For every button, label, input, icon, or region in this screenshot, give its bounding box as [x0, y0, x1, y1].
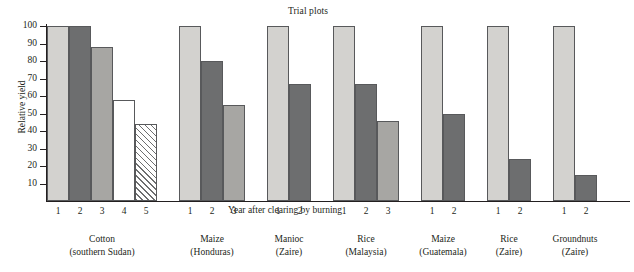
x-axis-tick-label: 2 [291, 206, 309, 216]
bar [553, 26, 575, 201]
x-axis-tick-label: 3 [379, 206, 397, 216]
y-axis-tick [40, 44, 47, 45]
x-axis-tick-label: 1 [49, 206, 67, 216]
y-axis-tick-label: 40 [11, 126, 37, 135]
bar [575, 175, 597, 201]
x-axis-tick-label: 1 [269, 206, 287, 216]
bar [509, 159, 531, 201]
y-axis-tick-label: 90 [11, 39, 37, 48]
y-axis-tick-label: 80 [11, 56, 37, 65]
bar [487, 26, 509, 201]
y-axis-tick [40, 184, 47, 185]
x-axis-tick-label: 5 [137, 206, 155, 216]
y-axis-tick [40, 79, 47, 80]
x-axis-tick-label: 2 [71, 206, 89, 216]
x-axis-tick-label: 3 [225, 206, 243, 216]
group-crop-label: Cotton [89, 234, 115, 244]
bar [333, 26, 355, 201]
x-axis-tick-label: 1 [489, 206, 507, 216]
y-axis-tick [40, 96, 47, 97]
group-crop-label: Rice [357, 234, 374, 244]
bar [69, 26, 91, 201]
y-axis-tick [40, 26, 47, 27]
y-axis-tick [40, 166, 47, 167]
bar [267, 26, 289, 201]
bar [421, 26, 443, 201]
y-axis-tick-label: 100 [11, 21, 37, 30]
y-axis-tick-label: 70 [11, 74, 37, 83]
y-axis-tick-label: 50 [11, 109, 37, 118]
y-axis-tick [40, 61, 47, 62]
x-axis-tick-label: 2 [577, 206, 595, 216]
bar [135, 124, 157, 201]
bar [443, 114, 465, 202]
x-axis-tick-label: 3 [93, 206, 111, 216]
bar [223, 105, 245, 201]
group-crop-label: Groundnuts [553, 234, 598, 244]
chart-title: Trial plots [288, 6, 328, 16]
x-axis-tick-label: 1 [181, 206, 199, 216]
y-axis-tick-label: 10 [11, 179, 37, 188]
y-axis-tick-label: 60 [11, 91, 37, 100]
bar [91, 47, 113, 201]
bar [377, 121, 399, 202]
bar [289, 84, 311, 201]
x-axis-line [46, 201, 630, 202]
bar [201, 61, 223, 201]
x-axis-tick-label: 2 [203, 206, 221, 216]
group-crop-label: Maize [200, 234, 224, 244]
y-axis-tick [40, 114, 47, 115]
bar [113, 100, 135, 202]
x-axis-tick-label: 2 [511, 206, 529, 216]
bar [47, 26, 69, 201]
x-axis-tick-label: 2 [357, 206, 375, 216]
x-axis-tick-label: 4 [115, 206, 133, 216]
y-axis-tick-label: 20 [11, 161, 37, 170]
x-axis-tick-label: 1 [335, 206, 353, 216]
group-location-label: (Zaire) [513, 246, 634, 259]
y-axis-tick-label: 30 [11, 144, 37, 153]
group-caption: Groundnuts(Zaire) [513, 233, 634, 258]
bar [179, 26, 201, 201]
x-axis-tick-label: 1 [555, 206, 573, 216]
bar [355, 84, 377, 201]
x-axis-tick-label: 2 [445, 206, 463, 216]
y-axis-tick [40, 131, 47, 132]
x-axis-tick-label: 1 [423, 206, 441, 216]
y-axis-tick [40, 149, 47, 150]
